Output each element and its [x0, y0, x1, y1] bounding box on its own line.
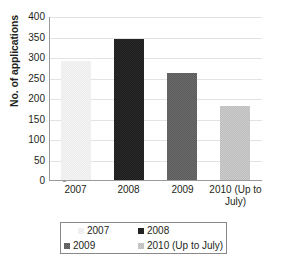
- y-axis-tick-label: 350: [17, 33, 45, 43]
- plot-area: [49, 17, 262, 181]
- y-axis-tick-label: 150: [17, 115, 45, 125]
- y-axis-tick-label: 300: [17, 53, 45, 63]
- gridline: [50, 58, 262, 59]
- x-axis-tick-label: 2010 (Up toJuly): [209, 184, 262, 207]
- legend-entry[interactable]: 2010 (Up to July): [138, 238, 231, 253]
- x-axis-tick-label-line: July): [209, 196, 262, 208]
- y-axis-tick-label: 100: [17, 135, 45, 145]
- legend-label: 2008: [147, 226, 169, 236]
- x-axis-tick-label-line: 2007: [49, 184, 102, 196]
- y-axis-tick-label: 50: [17, 156, 45, 166]
- gridline: [50, 99, 262, 100]
- legend-label: 2009: [73, 241, 95, 251]
- legend-swatch-icon: [138, 228, 144, 234]
- gridline: [50, 140, 262, 141]
- x-axis-tick-label: 2008: [102, 184, 155, 196]
- x-axis-tick-label-line: 2009: [156, 184, 209, 196]
- legend-label: 2010 (Up to July): [147, 241, 223, 251]
- legend-swatch-icon: [138, 243, 144, 249]
- legend-entry[interactable]: 2008: [138, 223, 231, 238]
- gridline: [50, 120, 262, 121]
- legend-entry[interactable]: 2007: [64, 223, 138, 238]
- y-axis-tick-label: 0: [17, 176, 45, 186]
- legend-swatch-icon: [64, 243, 70, 249]
- y-axis-tick-label: 250: [17, 74, 45, 84]
- chart-legend: 2007200820092010 (Up to July): [60, 222, 227, 254]
- legend-swatch-icon: [78, 228, 84, 234]
- x-axis-tick-label-line: 2010 (Up to: [209, 184, 262, 196]
- gridline: [50, 17, 262, 18]
- gridline: [50, 38, 262, 39]
- y-axis-tick-labels: 400350300250200150100500: [17, 17, 45, 181]
- y-axis-tick-label: 400: [17, 12, 45, 22]
- x-axis-tick-label: 2009: [156, 184, 209, 196]
- legend-label: 2007: [87, 226, 109, 236]
- x-axis-tick-label-line: 2008: [102, 184, 155, 196]
- x-axis-tick-labels: 2007200820092010 (Up toJuly): [49, 184, 262, 212]
- y-axis-tick-label: 200: [17, 94, 45, 104]
- x-axis-tick-label: 2007: [49, 184, 102, 196]
- gridlines: [50, 17, 262, 180]
- gridline: [50, 79, 262, 80]
- bar-chart: No. of applications 40035030025020015010…: [0, 0, 286, 263]
- legend-entry[interactable]: 2009: [64, 238, 138, 253]
- gridline: [50, 161, 262, 162]
- y-axis-tick-mark: [63, 181, 66, 182]
